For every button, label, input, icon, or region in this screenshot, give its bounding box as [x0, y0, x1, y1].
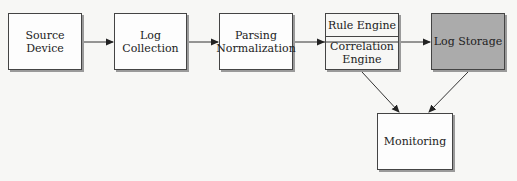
node-rule-correlation-engine: Rule Engine Correlation Engine: [325, 13, 399, 70]
correlation-engine-section: Correlation Engine: [326, 37, 398, 69]
node-source-device: Source Device: [8, 13, 82, 70]
node-label: Log Storage: [434, 35, 502, 48]
node-label-line1: Parsing: [235, 29, 277, 42]
node-label: Source Device: [9, 29, 81, 55]
node-label-bottom-line2: Engine: [342, 53, 381, 66]
node-label-bottom-line1: Correlation: [330, 40, 394, 53]
node-log-storage: Log Storage: [431, 13, 505, 70]
node-log-collection: Log Collection: [114, 13, 187, 70]
rule-engine-section: Rule Engine: [326, 14, 398, 37]
node-label: Monitoring: [384, 135, 446, 148]
node-monitoring: Monitoring: [377, 113, 453, 170]
node-parsing-normalization: Parsing Normalization: [219, 13, 293, 70]
node-label: Log Collection: [115, 29, 186, 55]
arrow-storage-to-monitoring: [429, 72, 468, 112]
node-label-top: Rule Engine: [328, 19, 396, 32]
arrow-engine-to-monitoring: [362, 72, 399, 112]
node-label-line2: Normalization: [216, 42, 296, 55]
arrowhead-into-engine: [317, 39, 325, 46]
